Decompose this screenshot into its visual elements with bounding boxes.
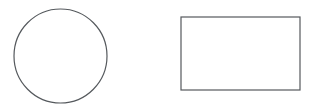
- rectangle-shape: [181, 17, 300, 90]
- circle-shape: [14, 9, 107, 103]
- drawing-canvas: [0, 0, 316, 108]
- shapes-svg: [0, 0, 316, 108]
